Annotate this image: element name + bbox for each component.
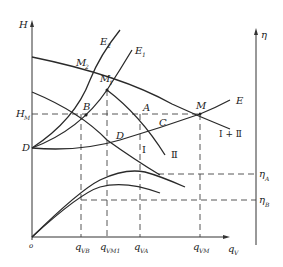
curve-pump-ii [107,90,165,155]
svg-text:A: A [264,175,270,182]
svg-text:1: 1 [142,51,146,58]
eta-axis-label: η [261,29,267,40]
label-qvm1: q VM1 [100,241,120,254]
point-b-marker [85,114,88,117]
h-axis-label: H [18,19,28,30]
svg-text:1: 1 [109,79,113,86]
point-m-marker [199,113,202,116]
label-e2: E 2 [99,36,111,49]
svg-text:V: V [234,249,239,256]
label-qvm: q VM [193,241,210,254]
curve-eta-combined [32,171,185,237]
q-axis-label: q V [228,243,239,256]
label-e1: E 1 [134,45,146,58]
q-axis-arrow-icon [223,235,230,239]
label-curve-combined: Ⅰ + Ⅱ [219,129,242,139]
label-curve-i: Ⅰ [142,144,146,155]
svg-text:M: M [23,114,31,121]
label-b: B [82,101,90,112]
svg-text:VA: VA [140,247,149,254]
label-eta-a: η A [259,168,270,182]
point-m1-marker [106,89,109,92]
svg-text:2: 2 [84,63,89,70]
svg-text:B: B [264,201,270,208]
label-hm: H M [15,108,31,121]
label-qvb: q VB [75,241,90,254]
label-c: C [159,117,167,128]
eta-axis-arrow-icon [254,28,258,35]
label-m1: M 1 [99,73,113,86]
label-eta-b: η B [259,194,270,208]
svg-text:VB: VB [81,247,90,254]
label-curve-ii: Ⅱ [171,149,178,160]
svg-text:VM: VM [199,247,210,254]
svg-text:2: 2 [106,42,111,49]
svg-text:VM1: VM1 [106,247,120,254]
h-axis-arrow-icon [30,20,34,27]
label-m: M [195,100,207,111]
pump-characteristic-diagram: H η o q V M 2 [0,0,283,267]
label-e: E [235,95,244,106]
label-d-axis: D [21,142,30,153]
label-qva: q VA [134,241,149,254]
label-a: A [142,102,150,113]
curve-eta-single [32,185,160,237]
label-d-point: D [115,130,124,141]
origin-label: o [29,242,33,250]
